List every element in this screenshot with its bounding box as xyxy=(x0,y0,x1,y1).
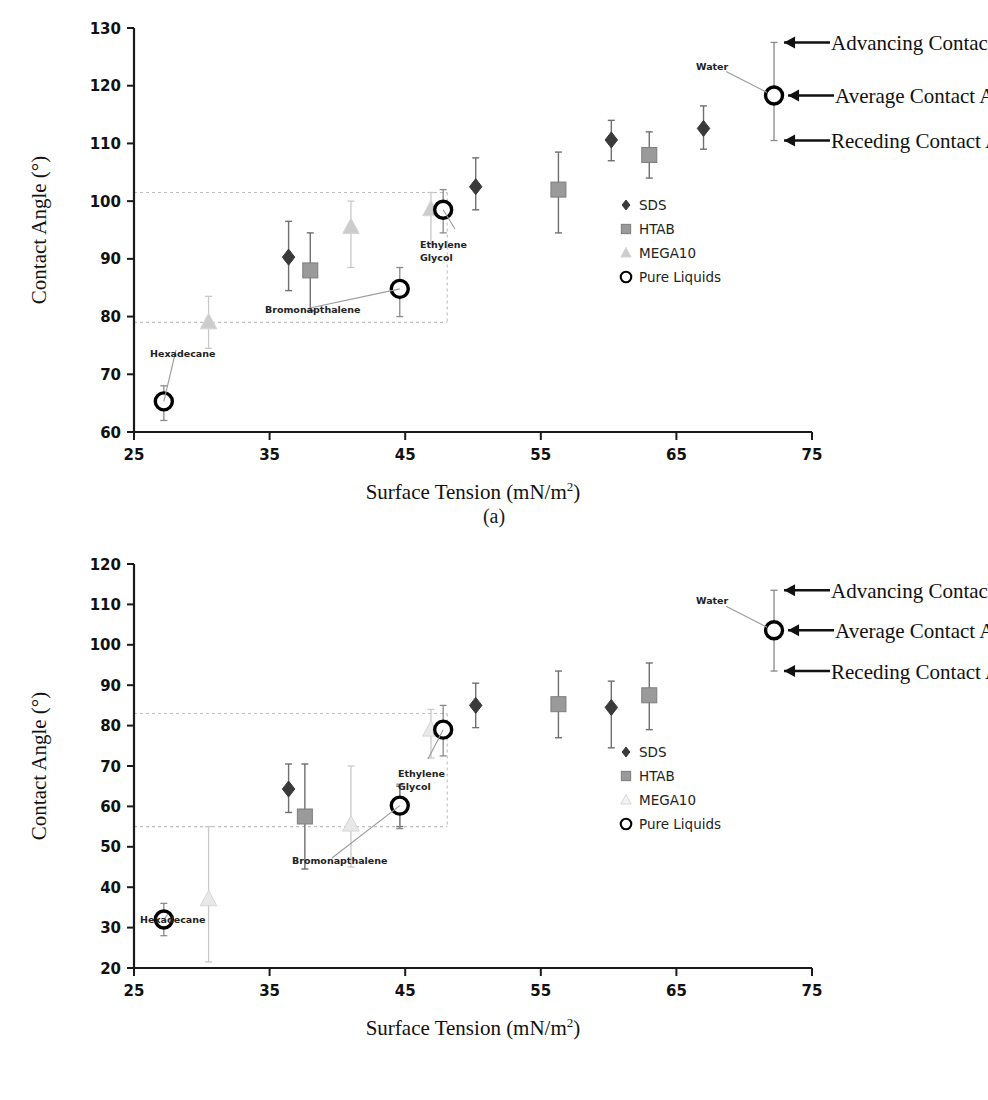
legend-item-pure-liquids[interactable]: Pure Liquids xyxy=(621,269,721,285)
panel-a-tag: (a) xyxy=(0,505,988,528)
marker-circle-open xyxy=(766,87,783,104)
x-tick-label: 25 xyxy=(124,982,145,1000)
point-label: Bromonapthalene xyxy=(265,304,360,315)
x-tick-label: 65 xyxy=(666,446,687,464)
series-sds xyxy=(282,681,617,826)
y-tick-label: 40 xyxy=(100,879,121,897)
x-tick-label: 25 xyxy=(124,446,145,464)
y-tick-label: 100 xyxy=(90,636,121,654)
legend-item-mega10[interactable]: MEGA10 xyxy=(621,792,696,808)
marker-square xyxy=(551,182,566,197)
annotation-receding-arrow-head xyxy=(784,135,795,147)
y-tick-label: 80 xyxy=(100,717,121,735)
legend: SDSHTABMEGA10Pure Liquids xyxy=(621,197,721,285)
data-point xyxy=(343,201,360,267)
marker-triangle xyxy=(621,247,631,257)
marker-diamond xyxy=(282,249,294,265)
annotation-average-arrow-head xyxy=(788,90,799,102)
point-label: Ethylene xyxy=(398,768,445,779)
data-point xyxy=(605,120,617,160)
marker-diamond xyxy=(469,697,481,713)
y-tick-label: 60 xyxy=(100,798,121,816)
marker-triangle xyxy=(200,313,217,328)
point-label: Ethylene xyxy=(420,239,467,250)
legend-item-sds[interactable]: SDS xyxy=(622,197,666,213)
marker-diamond xyxy=(697,120,709,136)
data-point xyxy=(766,590,783,671)
y-axis-title: Contact Angle (°) xyxy=(27,156,51,304)
chart-b-canvas: 2030405060708090100110120253545556575Sur… xyxy=(0,540,988,1058)
legend-item-sds[interactable]: SDS xyxy=(622,744,666,760)
data-point xyxy=(282,221,294,290)
marker-square xyxy=(642,147,657,162)
series-pure-liquids xyxy=(155,590,782,935)
legend-item-mega10[interactable]: MEGA10 xyxy=(621,245,696,261)
marker-square xyxy=(303,263,318,278)
annotation-advancing-label: Advancing Contact Angle xyxy=(831,579,988,603)
data-point xyxy=(423,192,440,244)
data-point xyxy=(551,152,566,233)
legend-label: Pure Liquids xyxy=(639,816,721,832)
chart-panel-b: 2030405060708090100110120253545556575Sur… xyxy=(0,540,988,1100)
x-tick-label: 55 xyxy=(530,446,551,464)
data-point xyxy=(200,827,217,962)
annotation-group: Advancing Contact AngleAverage Contact A… xyxy=(696,579,988,684)
y-tick-label: 30 xyxy=(100,919,121,937)
water-label: Water xyxy=(696,595,729,606)
legend-item-htab[interactable]: HTAB xyxy=(621,768,675,784)
annotation-receding-label: Receding Contact Angle xyxy=(831,129,988,153)
marker-triangle xyxy=(343,816,360,831)
annotation-receding-arrow-head xyxy=(784,665,795,677)
point-label-line2: Glycol xyxy=(398,781,431,792)
legend-label: SDS xyxy=(639,744,667,760)
point-label: Hexadecane xyxy=(150,348,215,359)
y-axis-title: Contact Angle (°) xyxy=(27,692,51,840)
legend-item-htab[interactable]: HTAB xyxy=(621,221,675,237)
x-tick-label: 35 xyxy=(259,446,280,464)
water-label: Water xyxy=(696,61,729,72)
x-tick-label: 75 xyxy=(802,446,823,464)
axis-lines xyxy=(134,564,812,968)
y-tick-label: 50 xyxy=(100,838,121,856)
point-labels: HexadecaneBromonapthaleneEthyleneGlycol xyxy=(150,210,467,402)
annotation-receding-label: Receding Contact Angle xyxy=(831,660,988,684)
marker-diamond xyxy=(282,781,294,797)
y-tick-label: 100 xyxy=(90,193,121,211)
annotation-advancing-label: Advancing Contact Angle xyxy=(831,31,988,55)
legend-label: HTAB xyxy=(639,221,675,237)
x-axis-title: Surface Tension (mN/m2) xyxy=(366,479,581,504)
marker-square xyxy=(642,688,657,703)
y-tick-label: 70 xyxy=(100,758,121,776)
annotation-average-arrow-head xyxy=(788,624,799,636)
x-tick-label: 55 xyxy=(530,982,551,1000)
data-point xyxy=(642,663,657,730)
y-tick-label: 120 xyxy=(90,556,121,574)
y-tick-label: 110 xyxy=(90,596,121,614)
annotation-advancing-arrow-head xyxy=(784,584,795,596)
marker-diamond xyxy=(605,132,617,148)
marker-triangle xyxy=(621,794,631,804)
marker-square xyxy=(621,224,630,233)
legend-label: MEGA10 xyxy=(639,792,696,808)
marker-triangle xyxy=(343,218,360,233)
annotation-advancing-arrow-head xyxy=(784,36,795,48)
y-tick-label: 90 xyxy=(100,250,121,268)
data-point xyxy=(297,764,312,869)
legend-label: SDS xyxy=(639,197,667,213)
data-point xyxy=(469,683,481,727)
y-tick-label: 70 xyxy=(100,366,121,384)
y-tick-label: 130 xyxy=(90,20,121,38)
legend-label: HTAB xyxy=(639,768,675,784)
data-series-group xyxy=(155,42,782,420)
marker-square xyxy=(551,697,566,712)
marker-circle-open xyxy=(766,622,783,639)
x-tick-label: 75 xyxy=(802,982,823,1000)
point-label-line2: Glycol xyxy=(420,252,453,263)
x-tick-label: 65 xyxy=(666,982,687,1000)
legend-item-pure-liquids[interactable]: Pure Liquids xyxy=(621,816,721,832)
data-point xyxy=(435,190,452,233)
data-point xyxy=(303,233,318,311)
data-point xyxy=(155,386,172,421)
series-mega10 xyxy=(200,709,439,962)
data-point xyxy=(642,132,657,178)
